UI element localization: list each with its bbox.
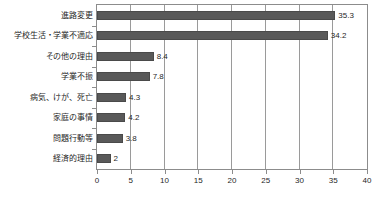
x-axis-tick-label: 10: [155, 176, 175, 185]
value-label: 34.2: [331, 31, 347, 40]
x-axis-tick: [333, 170, 334, 174]
bar: [97, 31, 328, 40]
x-axis-tick: [367, 170, 368, 174]
x-axis-tick: [300, 170, 301, 174]
y-axis-tick: [92, 87, 96, 88]
x-axis-tick: [266, 170, 267, 174]
y-axis-tick: [92, 26, 96, 27]
bar: [97, 154, 111, 163]
x-axis-tick: [198, 170, 199, 174]
x-axis-tick-label: 40: [357, 176, 375, 185]
category-label: 問題行動等: [0, 134, 93, 143]
category-label: 経済的理由: [0, 154, 93, 163]
bar: [97, 113, 125, 122]
bars-layer: [97, 5, 367, 169]
x-axis-tick-label: 35: [323, 176, 343, 185]
y-axis-tick: [92, 67, 96, 68]
category-label: 学業不振: [0, 72, 93, 81]
category-axis: 進路変更学校生活・学業不適応その他の理由学業不振病気、けが、死亡家庭の事情問題行…: [0, 8, 93, 170]
bar-chart: 進路変更学校生活・学業不適応その他の理由学業不振病気、けが、死亡家庭の事情問題行…: [0, 0, 375, 200]
x-axis-tick: [232, 170, 233, 174]
y-axis-tick: [92, 128, 96, 129]
y-axis-tick: [92, 149, 96, 150]
x-axis-tick-label: 5: [121, 176, 141, 185]
bar: [97, 72, 150, 81]
y-axis-tick: [92, 108, 96, 109]
x-axis-tick-label: 0: [87, 176, 107, 185]
value-label: 2: [114, 154, 118, 163]
bar: [97, 52, 154, 61]
y-axis-tick: [92, 46, 96, 47]
x-axis-tick: [97, 170, 98, 174]
bar: [97, 11, 335, 20]
x-axis-tick-label: 20: [222, 176, 242, 185]
value-label: 4.3: [129, 93, 140, 102]
value-label: 35.3: [338, 11, 354, 20]
category-label: 進路変更: [0, 11, 93, 20]
value-label: 4.2: [128, 113, 139, 122]
bar: [97, 93, 126, 102]
x-axis-tick: [165, 170, 166, 174]
value-label: 7.8: [153, 72, 164, 81]
x-axis-tick-label: 15: [188, 176, 208, 185]
category-label: その他の理由: [0, 52, 93, 61]
value-label: 8.4: [157, 52, 168, 61]
bar: [97, 134, 123, 143]
value-label: 3.8: [126, 134, 137, 143]
x-axis-tick: [131, 170, 132, 174]
category-label: 病気、けが、死亡: [0, 93, 93, 102]
category-label: 学校生活・学業不適応: [0, 31, 93, 40]
x-axis-tick-label: 30: [290, 176, 310, 185]
x-axis-tick-label: 25: [256, 176, 276, 185]
category-label: 家庭の事情: [0, 113, 93, 122]
